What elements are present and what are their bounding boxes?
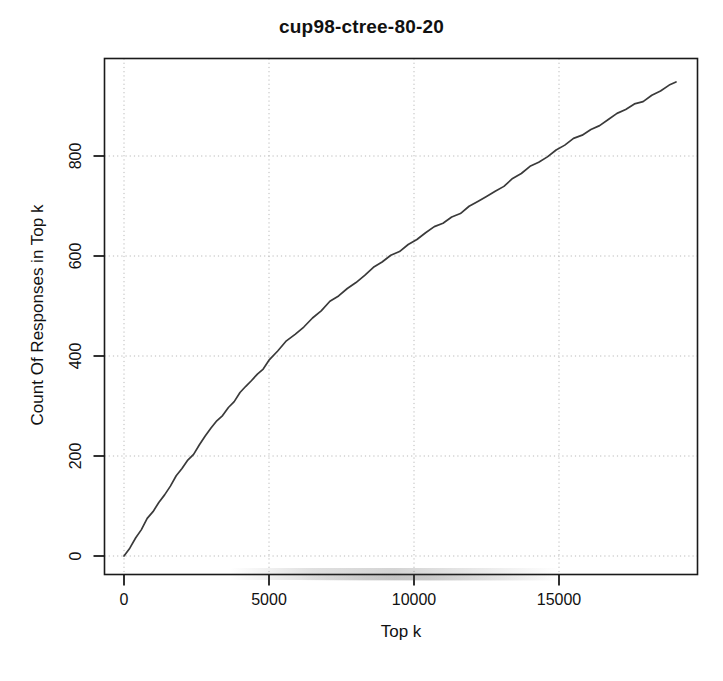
grid-lines: [105, 59, 698, 575]
data-series-line: [124, 82, 676, 556]
plot-box-border: [105, 59, 698, 575]
chart-figure: cup98-ctree-80-20 Count Of Responses in …: [0, 0, 723, 681]
plot-area: [0, 0, 723, 681]
axis-ticks: [94, 156, 560, 586]
